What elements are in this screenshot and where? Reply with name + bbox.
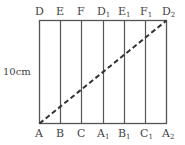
- label-top-0: D: [35, 5, 44, 18]
- label-top-5: F1: [140, 5, 152, 19]
- bottom-labels: A B C A1 B1 C1 A2: [34, 127, 174, 141]
- label-bottom-6: A2: [161, 127, 174, 141]
- label-top-1: E: [56, 5, 64, 18]
- label-top-2: F: [77, 5, 85, 18]
- label-top-6: D2: [162, 5, 175, 19]
- label-bottom-2: C: [77, 127, 85, 140]
- label-bottom-4: B1: [118, 127, 131, 141]
- label-top-3: D1: [97, 5, 110, 19]
- label-bottom-3: A1: [96, 127, 109, 141]
- rectangle-diagram: D E F D1 E1 F1 D2 A B C A1 B1 C1 A2 10cm: [0, 0, 185, 145]
- top-labels: D E F D1 E1 F1 D2: [35, 5, 175, 19]
- label-bottom-0: A: [34, 127, 44, 140]
- label-bottom-5: C1: [140, 127, 153, 141]
- height-label: 10cm: [3, 66, 31, 77]
- label-top-4: E1: [118, 5, 131, 19]
- label-bottom-1: B: [56, 127, 64, 140]
